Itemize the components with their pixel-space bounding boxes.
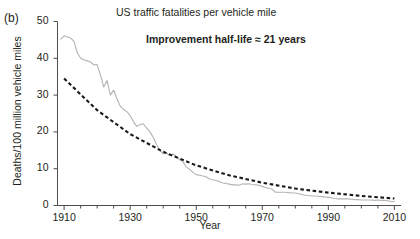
y-tick-label: 0 (23, 198, 49, 210)
y-tick-label: 20 (23, 124, 49, 136)
y-tick-label: 50 (23, 14, 49, 26)
y-tick-label: 30 (23, 88, 49, 100)
x-tick-label: 1970 (242, 211, 282, 223)
x-tick-label: 1910 (44, 211, 84, 223)
data-line-series (61, 36, 395, 202)
y-tick-label: 10 (23, 161, 49, 173)
figure-panel: (b) US traffic fatalities per vehicle mi… (0, 0, 420, 239)
x-tick-label: 1950 (176, 211, 216, 223)
fit-line-series (64, 79, 394, 199)
x-tick-label: 1990 (308, 211, 348, 223)
plot-area (0, 0, 420, 239)
x-tick-label: 2010 (374, 211, 414, 223)
y-tick-label: 40 (23, 51, 49, 63)
x-tick-label: 1930 (110, 211, 150, 223)
